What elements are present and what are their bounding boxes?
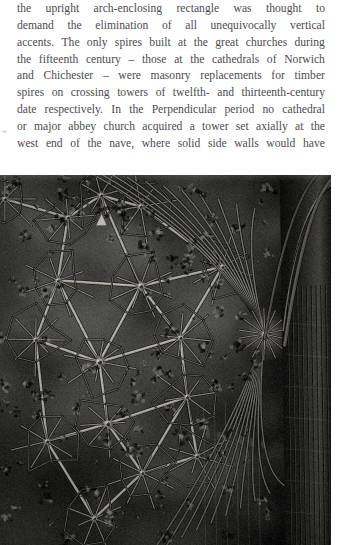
- text-word: respectively.: [45, 102, 103, 119]
- text-word: demand: [17, 18, 54, 35]
- text-line: spiresoncrossingtowersoftwelfth-andthirt…: [17, 85, 325, 102]
- text-word: The: [61, 35, 79, 52]
- text-word: spires: [17, 85, 44, 102]
- text-line: daterespectively.InthePerpendicularperio…: [17, 102, 325, 119]
- text-word: for: [271, 68, 285, 85]
- text-word: were: [118, 68, 141, 85]
- text-word: and: [217, 85, 234, 102]
- vault-photograph-canvas: [0, 175, 331, 545]
- text-line: westendofthenave,wheresolidsidewallswoul…: [17, 136, 325, 153]
- text-word: only: [87, 35, 108, 52]
- text-word: In: [111, 102, 121, 119]
- text-line: theuprightarch-enclosingrectanglewasthou…: [17, 1, 325, 18]
- text-word: have: [303, 136, 325, 153]
- plate-right-margin: [331, 175, 344, 545]
- text-word: elimination: [95, 18, 148, 35]
- text-word: twelfth-: [173, 85, 210, 102]
- text-word: axially: [256, 119, 288, 136]
- text-word: Norwich: [284, 52, 325, 69]
- text-word: –: [128, 52, 134, 69]
- text-word: of: [162, 18, 172, 35]
- text-word: the: [17, 1, 31, 18]
- text-line: ormajorabbeychurchacquiredatowersetaxial…: [17, 119, 325, 136]
- book-page: theuprightarch-enclosingrectanglewasthou…: [0, 0, 344, 545]
- text-word: accents.: [17, 35, 54, 52]
- text-word: all: [185, 18, 197, 35]
- text-line: andChichester–weremasonryreplacementsfor…: [17, 68, 325, 85]
- text-word: nave,: [109, 136, 134, 153]
- text-word: major: [34, 119, 61, 136]
- text-word: those: [142, 52, 167, 69]
- text-word: side: [208, 136, 227, 153]
- text-word: spires: [115, 35, 142, 52]
- text-line: accents.Theonlyspiresbuiltatthegreatchur…: [17, 35, 325, 52]
- text-word: churches: [246, 35, 287, 52]
- text-word: the: [88, 136, 102, 153]
- text-word: century: [86, 52, 121, 69]
- text-word: and: [17, 68, 34, 85]
- text-word: end: [46, 136, 63, 153]
- text-word: upright: [46, 1, 80, 18]
- text-word: great: [215, 35, 238, 52]
- text-word: cathedrals: [212, 52, 259, 69]
- text-word: built: [149, 35, 170, 52]
- text-word: no: [262, 102, 274, 119]
- text-word: west: [17, 136, 38, 153]
- text-word: fifteenth: [39, 52, 78, 69]
- text-word: rectangle: [176, 1, 219, 18]
- text-word: of: [156, 85, 166, 102]
- text-word: period: [225, 102, 255, 119]
- text-word: the: [190, 52, 204, 69]
- text-word: walls: [234, 136, 259, 153]
- text-word: of: [70, 136, 80, 153]
- body-text-block: theuprightarch-enclosingrectanglewasthou…: [17, 1, 325, 153]
- text-word: timber: [295, 68, 325, 85]
- text-word: Chichester: [43, 68, 93, 85]
- text-word: thirteenth-century: [242, 85, 325, 102]
- text-word: where: [142, 136, 170, 153]
- text-word: the: [311, 119, 325, 136]
- text-word: Perpendicular: [152, 102, 217, 119]
- text-word: the: [67, 18, 81, 35]
- text-word: to: [316, 1, 325, 18]
- text-word: crossing: [71, 85, 110, 102]
- text-word: tower: [202, 119, 229, 136]
- text-word: or: [17, 119, 27, 136]
- text-word: the: [17, 52, 31, 69]
- text-word: solid: [178, 136, 201, 153]
- text-word: would: [266, 136, 295, 153]
- text-word: vertical: [290, 18, 325, 35]
- text-word: on: [52, 85, 64, 102]
- text-word: church: [103, 119, 135, 136]
- text-line: thefifteenthcentury–thoseatthecathedrals…: [17, 52, 325, 69]
- text-word: was: [234, 1, 252, 18]
- text-word: the: [129, 102, 143, 119]
- text-word: masonry: [151, 68, 191, 85]
- text-word: at: [295, 119, 303, 136]
- text-word: cathedral: [282, 102, 325, 119]
- text-word: towers: [117, 85, 148, 102]
- text-word: during: [294, 35, 324, 52]
- text-word: at: [178, 35, 186, 52]
- text-word: thought: [266, 1, 302, 18]
- text-word: replacements: [200, 68, 261, 85]
- text-word: date: [17, 102, 36, 119]
- text-word: of: [267, 52, 277, 69]
- text-line: demandtheeliminationofallunequivocallyve…: [17, 18, 325, 35]
- text-word: set: [236, 119, 249, 136]
- text-word: unequivocally: [211, 18, 277, 35]
- vault-photograph: [0, 175, 331, 545]
- text-word: at: [174, 52, 182, 69]
- text-word: abbey: [68, 119, 96, 136]
- text-word: –: [103, 68, 109, 85]
- text-word: the: [194, 35, 208, 52]
- text-word: acquired: [142, 119, 182, 136]
- margin-artifact-mark: [2, 130, 7, 133]
- text-word: arch-enclosing: [94, 1, 163, 18]
- text-word: a: [190, 119, 195, 136]
